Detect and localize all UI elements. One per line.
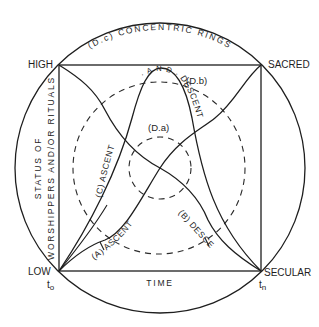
outer-ring-label: (D.c) CONCENTRIC RINGS — [86, 22, 234, 51]
curve-a-label: (A) ASCENT — [89, 218, 134, 261]
y-axis-label-line1: STATUS OF — [33, 137, 43, 200]
label-high: HIGH — [28, 59, 53, 70]
label-sacred: SACRED — [268, 59, 310, 70]
time-end-mark: tn — [259, 279, 266, 292]
inner-ring-label: (D.a) — [148, 122, 169, 133]
y-axis-label-line2: WORSHIPPERS AND/OR RITUALS — [46, 76, 56, 260]
curve-b-descent — [59, 65, 261, 271]
x-axis-label: TIME — [146, 278, 174, 288]
concentric-rings-diagram: HIGH SACRED LOW SECULAR to tn TIME STATU… — [0, 0, 319, 327]
curve-c-label-and: · A N D · — [139, 64, 182, 79]
label-secular: SECULAR — [264, 267, 311, 278]
label-low: LOW — [28, 266, 51, 277]
time-start-mark: to — [47, 279, 55, 292]
curve-c-ascent-and-descent — [59, 68, 261, 271]
